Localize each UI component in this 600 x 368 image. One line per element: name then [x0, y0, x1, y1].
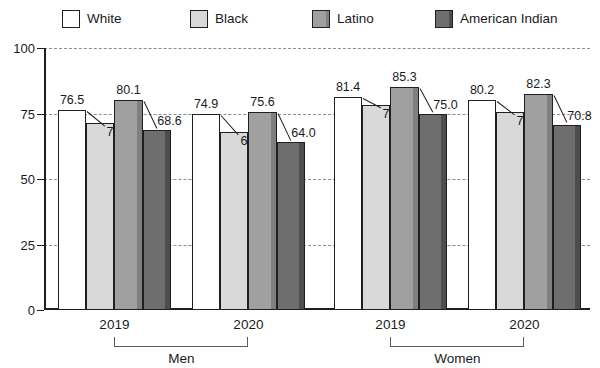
y-tick-50 — [37, 179, 44, 180]
legend-item-american-indian[interactable]: American Indian — [435, 10, 558, 28]
bar-bevel — [271, 113, 276, 309]
bar-bevel — [413, 88, 418, 309]
bar-bevel — [441, 115, 446, 310]
bar-white-2019-women[interactable] — [334, 97, 362, 310]
bar-bevel — [547, 95, 552, 309]
bar-american-indian-2019-women[interactable] — [419, 114, 447, 311]
bar-american-indian-2020-women[interactable] — [553, 125, 581, 310]
bar-bevel — [137, 101, 142, 309]
x-tick-label: 2020 — [233, 318, 263, 332]
legend-label: Latino — [337, 12, 374, 26]
label-leader-line — [277, 113, 291, 141]
x-tick-label: 2019 — [99, 318, 129, 332]
y-tick-label: 0 — [28, 304, 35, 317]
group-bracket-men — [114, 337, 248, 347]
legend-label: White — [87, 12, 122, 26]
bar-american-indian-2019-men[interactable] — [143, 130, 171, 310]
y-tick-100 — [37, 48, 44, 49]
group-label: Men — [168, 352, 194, 366]
label-leader-line — [143, 101, 157, 129]
grouped-bar-chart: WhiteBlackLatinoAmerican Indian 76.571.4… — [0, 0, 600, 368]
bar-white-2020-men[interactable] — [192, 114, 220, 310]
chart-legend: WhiteBlackLatinoAmerican Indian — [0, 8, 600, 36]
bar-latino-2019-women[interactable] — [390, 87, 418, 310]
swatch-bevel — [326, 11, 329, 27]
y-tick-75 — [37, 114, 44, 115]
label-leader-line — [553, 96, 567, 124]
bar-value-label: 75.0 — [433, 99, 457, 112]
bar-american-indian-2020-men[interactable] — [277, 142, 305, 310]
bar-value-label: 85.3 — [392, 71, 416, 84]
legend-label: Black — [215, 12, 248, 26]
y-tick-label: 75 — [21, 107, 35, 120]
bar-series-layer: 76.571.480.168.674.967.875.664.081.478.3… — [44, 48, 590, 310]
x-tick-label: 2019 — [375, 318, 405, 332]
bar-value-label: 81.4 — [336, 81, 360, 94]
y-tick-label: 100 — [13, 42, 35, 55]
bar-value-label: 82.3 — [526, 78, 550, 91]
legend-swatch-icon — [190, 10, 208, 28]
x-tick-label: 2020 — [509, 318, 539, 332]
y-tick-label: 25 — [21, 238, 35, 251]
bar-value-label: 74.9 — [194, 98, 218, 111]
group-label: Women — [434, 352, 480, 366]
bar-black-2020-women[interactable] — [496, 112, 524, 310]
legend-swatch-icon — [312, 10, 330, 28]
legend-item-black[interactable]: Black — [190, 10, 248, 28]
bar-white-2019-men[interactable] — [58, 110, 86, 310]
plot-area: 76.571.480.168.674.967.875.664.081.478.3… — [44, 48, 590, 310]
legend-swatch-icon — [62, 10, 80, 28]
bar-bevel — [299, 143, 304, 309]
bar-latino-2020-men[interactable] — [248, 112, 276, 310]
label-leader-line — [419, 88, 433, 112]
y-tick-0 — [37, 310, 44, 311]
legend-item-latino[interactable]: Latino — [312, 10, 374, 28]
bar-bevel — [165, 131, 170, 309]
bar-black-2020-men[interactable] — [220, 132, 248, 310]
swatch-bevel — [449, 11, 452, 27]
bar-value-label: 76.5 — [60, 94, 84, 107]
bar-latino-2019-men[interactable] — [114, 100, 142, 310]
legend-item-white[interactable]: White — [62, 10, 122, 28]
y-tick-label: 50 — [21, 173, 35, 186]
bar-black-2019-men[interactable] — [86, 123, 114, 310]
bar-black-2019-women[interactable] — [362, 105, 390, 310]
y-tick-25 — [37, 245, 44, 246]
bar-bevel — [575, 126, 580, 309]
bar-latino-2020-women[interactable] — [524, 94, 552, 310]
bar-value-label: 70.8 — [567, 110, 591, 123]
bar-value-label: 68.6 — [157, 115, 181, 128]
bar-value-label: 75.6 — [250, 96, 274, 109]
group-bracket-women — [390, 337, 524, 347]
legend-label: American Indian — [460, 12, 558, 26]
legend-swatch-icon — [435, 10, 453, 28]
bar-value-label: 80.1 — [116, 84, 140, 97]
bar-value-label: 64.0 — [291, 127, 315, 140]
bar-value-label: 80.2 — [470, 84, 494, 97]
bar-white-2020-women[interactable] — [468, 100, 496, 310]
